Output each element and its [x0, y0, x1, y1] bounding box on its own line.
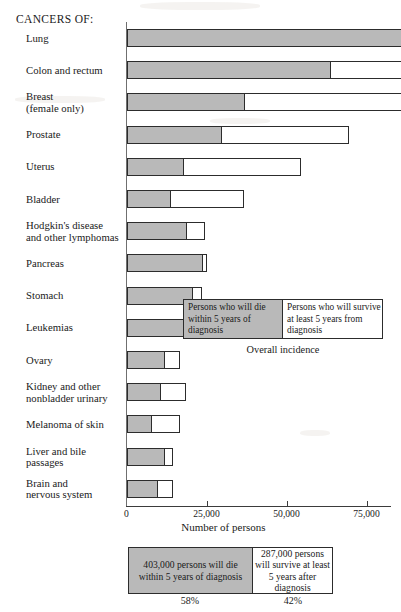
bar-segment-die: [127, 415, 153, 433]
bar-row: [127, 383, 186, 401]
category-label: Ovary: [26, 355, 53, 367]
bar-segment-survive: [151, 415, 180, 433]
bar-segment-die: [127, 448, 165, 466]
bar-segment-survive: [160, 383, 186, 401]
category-label-line: Uterus: [26, 161, 55, 173]
bar-row: [127, 190, 244, 208]
category-label: Stomach: [26, 290, 63, 302]
bar-segment-survive: [244, 93, 401, 111]
bar-segment-die: [127, 383, 162, 401]
category-label: Brain andnervous system: [26, 478, 92, 501]
category-label-line: Pancreas: [26, 258, 64, 270]
category-label-line: Leukemias: [26, 322, 73, 334]
category-label-line: Bladder: [26, 194, 60, 206]
category-label: Pancreas: [26, 258, 64, 270]
category-label-line: passages: [26, 457, 86, 469]
category-label: Leukemias: [26, 322, 73, 334]
summary-box: 403,000 persons will die within 5 years …: [128, 547, 333, 594]
x-axis-tick-label: 75,000: [353, 508, 379, 519]
bar-segment-die: [127, 222, 188, 240]
bar-segment-die: [127, 190, 172, 208]
bar-segment-survive: [164, 351, 180, 369]
bar-row: [127, 93, 401, 111]
bar-segment-survive: [186, 222, 205, 240]
x-axis-tick: [287, 501, 288, 506]
category-label: Melanoma of skin: [26, 419, 104, 431]
page-showthrough-artifact: [140, 2, 260, 10]
bar-segment-die: [127, 29, 401, 47]
bar-row: [127, 415, 180, 433]
x-axis-title: Number of persons: [0, 521, 401, 533]
bar-segment-die: [127, 254, 204, 272]
category-label: Uterus: [26, 161, 55, 173]
category-label-line: Stomach: [26, 290, 63, 302]
legend-item-survive: Persons who will survive at least 5 year…: [283, 300, 382, 338]
bar-row: [127, 222, 206, 240]
bar-row: [127, 480, 174, 498]
category-label: Liver and bilepassages: [26, 446, 86, 469]
bar-segment-die: [127, 93, 245, 111]
bar-row: [127, 448, 174, 466]
legend-item-die: Persons who will die within 5 years of d…: [184, 300, 283, 338]
page-showthrough-artifact: [300, 430, 330, 436]
x-axis-title-text: Number of persons: [181, 521, 265, 533]
bar-segment-survive: [330, 61, 401, 79]
category-label-line: and other lymphomas: [26, 232, 119, 244]
summary-survive-percent: 42%: [253, 595, 333, 606]
cancer-incidence-chart: CANCERS OF: LungColon and rectumBreast(f…: [0, 0, 401, 612]
category-label: Bladder: [26, 194, 60, 206]
bar-segment-die: [127, 126, 223, 144]
bar-row: [127, 351, 180, 369]
incidence-label-wrap: Overall incidence: [183, 344, 383, 355]
x-axis-tick: [207, 501, 208, 506]
category-label-line: (female only): [26, 103, 84, 115]
bar-segment-survive: [157, 480, 173, 498]
incidence-label-text: Overall incidence: [244, 344, 323, 355]
category-label: Lung: [26, 33, 49, 45]
category-label-line: Melanoma of skin: [26, 419, 104, 431]
bar-row: [127, 158, 302, 176]
bar-row: [127, 126, 350, 144]
bar-segment-die: [127, 319, 191, 337]
legend: Persons who will die within 5 years of d…: [183, 299, 383, 339]
category-label: Hodgkin's diseaseand other lymphomas: [26, 220, 119, 243]
page-title: CANCERS OF:: [16, 13, 94, 25]
bar-row: [127, 61, 401, 79]
x-axis-tick-label: 25,000: [193, 508, 219, 519]
category-label-line: Colon and rectum: [26, 65, 103, 77]
bar-segment-survive: [221, 126, 349, 144]
category-label: Prostate: [26, 129, 60, 141]
x-axis-tick: [367, 501, 368, 506]
bar-segment-die: [127, 158, 185, 176]
category-label: Colon and rectum: [26, 65, 103, 77]
category-label: Breast(female only): [26, 91, 84, 114]
category-label-line: Ovary: [26, 355, 53, 367]
x-axis-line: [126, 506, 391, 507]
bar-segment-survive: [202, 254, 207, 272]
page-showthrough-artifact: [210, 118, 270, 124]
x-axis-tick-label: 0: [124, 508, 129, 519]
category-label-line: Prostate: [26, 129, 60, 141]
bar-segment-survive: [183, 158, 301, 176]
overall-incidence-bracket: Overall incidence: [183, 344, 383, 358]
summary-survive-cell: 287,000 persons will survive at least 5 …: [253, 548, 332, 593]
bar-segment-survive: [170, 190, 244, 208]
summary-die-percent: 58%: [128, 595, 252, 606]
category-label-line: nonbladder urinary: [26, 393, 108, 405]
category-label: Kidney and othernonbladder urinary: [26, 381, 108, 404]
summary-die-cell: 403,000 persons will die within 5 years …: [129, 548, 253, 593]
bar-segment-survive: [164, 448, 174, 466]
bar-row: [127, 29, 401, 47]
bar-row: [127, 254, 208, 272]
bar-segment-die: [127, 61, 332, 79]
bar-segment-die: [127, 480, 159, 498]
bar-segment-die: [127, 351, 165, 369]
category-label-line: nervous system: [26, 489, 92, 501]
x-axis-tick-label: 50,000: [273, 508, 299, 519]
category-label-line: Lung: [26, 33, 49, 45]
